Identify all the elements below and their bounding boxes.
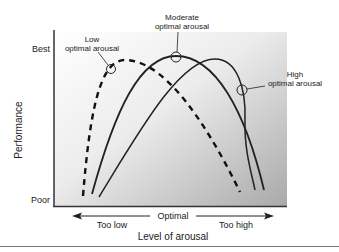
x-annotation-too-high: Too high [219,220,253,230]
label-moderate-line2: optimal arousal [155,22,209,31]
x-annotation-optimal: Optimal [157,211,188,221]
label-high-line2: optimal arousal [268,79,322,88]
y-tick-poor: Poor [31,195,50,205]
label-low-line1: Low [85,35,100,44]
label-moderate-line1: Moderate [165,13,199,22]
y-axis-label: Performance [13,101,24,159]
x-axis-label: Level of arousal [138,231,209,242]
arousal-performance-chart: Low optimal arousal Moderate optimal aro… [0,0,339,252]
label-high-line1: High [287,70,303,79]
label-low-line2: optimal arousal [65,44,119,53]
x-annotation-too-low: Too low [97,220,128,230]
y-tick-best: Best [32,44,51,54]
